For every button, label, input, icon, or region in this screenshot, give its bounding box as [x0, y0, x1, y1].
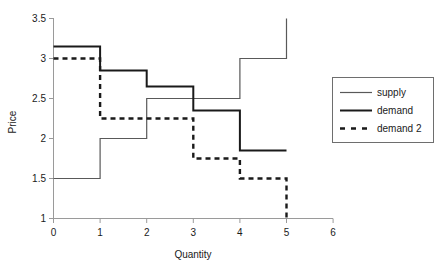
- x-tick-label-3: 3: [191, 227, 197, 238]
- legend: supply demand demand 2: [333, 78, 434, 143]
- legend-label-demand: demand: [377, 105, 413, 116]
- x-tick-label-5: 5: [284, 227, 290, 238]
- legend-label-demand-2: demand 2: [377, 123, 422, 134]
- x-tick-labels: 0 1 2 3 4 5 6: [51, 227, 337, 238]
- x-axis-title: Quantity: [174, 249, 211, 260]
- x-ticks: [54, 219, 334, 224]
- y-tick-label-1: 3: [40, 53, 46, 64]
- series-supply: [54, 19, 287, 179]
- x-tick-label-4: 4: [237, 227, 243, 238]
- legend-label-supply: supply: [377, 87, 406, 98]
- y-tick-label-4: 1.5: [32, 173, 46, 184]
- x-tick-label-2: 2: [144, 227, 150, 238]
- y-tick-label-5: 1: [40, 213, 46, 224]
- series-demand-2: [54, 59, 287, 219]
- x-tick-label-1: 1: [97, 227, 103, 238]
- series-group: [54, 19, 287, 219]
- y-tick-label-3: 2: [40, 133, 46, 144]
- y-tick-labels: 3.5 3 2.5 2 1.5 1: [32, 13, 46, 224]
- y-tick-label-2: 2.5: [32, 93, 46, 104]
- y-tick-label-0: 3.5: [32, 13, 46, 24]
- chart-container: 3.5 3 2.5 2 1.5 1 0 1 2 3 4 5 6 Quantity…: [0, 0, 448, 269]
- step-chart: 3.5 3 2.5 2 1.5 1 0 1 2 3 4 5 6 Quantity…: [0, 0, 448, 269]
- y-axis-title: Price: [7, 110, 18, 133]
- x-tick-label-0: 0: [51, 227, 57, 238]
- x-tick-label-6: 6: [330, 227, 336, 238]
- y-ticks: [49, 19, 54, 219]
